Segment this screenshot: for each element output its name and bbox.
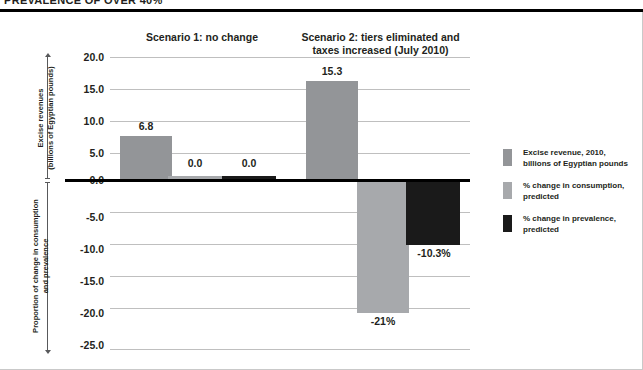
gridline-15: [110, 89, 470, 90]
bar-scenario2-prevalence: [406, 179, 460, 245]
scenario-2-heading: Scenario 2: tiers eliminated and taxes i…: [288, 31, 473, 57]
y-tick-20: 20.0: [58, 52, 104, 62]
bar-scenario2-revenue: [306, 81, 358, 179]
bar-label-scenario2-prevalence: -10.3%: [402, 248, 466, 259]
y-axis-label-proportion-change: Proportion of change in consumption and …: [31, 182, 50, 350]
bar-label-scenario1-revenue: 6.8: [116, 121, 176, 132]
plot-area: 6.8 0.0 0.0 15.3 -21% -10.3%: [110, 57, 470, 350]
y-tick-10: 10.0: [58, 116, 104, 126]
legend-label-revenue: Excise revenue, 2010, billions of Egypti…: [523, 148, 638, 169]
bar-label-scenario1-prevalence: 0.0: [219, 158, 279, 169]
legend-label-prevalence: % change in prevalence, predicted: [523, 214, 638, 235]
y-tick-neg25: -25.0: [58, 340, 104, 350]
y-axis-tick-labels: 20.0 15.0 10.0 5.0 0.0 -5.0 -10.0 -15.0 …: [58, 57, 104, 350]
gridline-neg20: [110, 308, 470, 309]
bar-scenario2-consumption: [357, 179, 409, 313]
bar-label-scenario1-consumption: 0.0: [165, 158, 225, 169]
y-tick-neg15: -15.0: [58, 276, 104, 286]
legend-item-revenue: Excise revenue, 2010, billions of Egypti…: [503, 148, 638, 170]
legend-label-consumption: % change in consumption, predicted: [523, 181, 638, 202]
y-tick-5: 5.0: [58, 148, 104, 158]
legend-swatch-consumption-icon: [503, 182, 512, 199]
legend-item-consumption: % change in consumption, predicted: [503, 181, 638, 203]
bracket-arrow-down-icon: [45, 350, 51, 354]
legend-item-prevalence: % change in prevalence, predicted: [503, 214, 638, 236]
zero-axis-line: [65, 179, 470, 182]
legend-swatch-revenue-icon: [503, 149, 512, 166]
y-tick-neg20: -20.0: [58, 308, 104, 318]
bar-label-scenario2-consumption: -21%: [353, 316, 413, 327]
gridline-neg25: [110, 349, 470, 350]
legend-swatch-prevalence-icon: [503, 215, 512, 232]
chart-legend: Excise revenue, 2010, billions of Egypti…: [503, 148, 638, 247]
y-tick-15: 15.0: [58, 84, 104, 94]
scenario-1-heading: Scenario 1: no change: [122, 31, 282, 44]
figure-root: PREVALENCE OF OVER 40% Scenario 1: no ch…: [0, 0, 643, 370]
gridline-neg15: [110, 276, 470, 277]
y-axis-label-excise-revenues: Excise revenues (billions of Egyptian po…: [36, 57, 55, 179]
header-divider-rule: [0, 9, 643, 12]
bar-label-scenario2-revenue: 15.3: [302, 66, 362, 77]
page-header-title: PREVALENCE OF OVER 40%: [4, 0, 163, 4]
y-tick-neg5: -5.0: [58, 212, 104, 222]
y-tick-neg10: -10.0: [58, 244, 104, 254]
gridline-20: [110, 57, 470, 58]
